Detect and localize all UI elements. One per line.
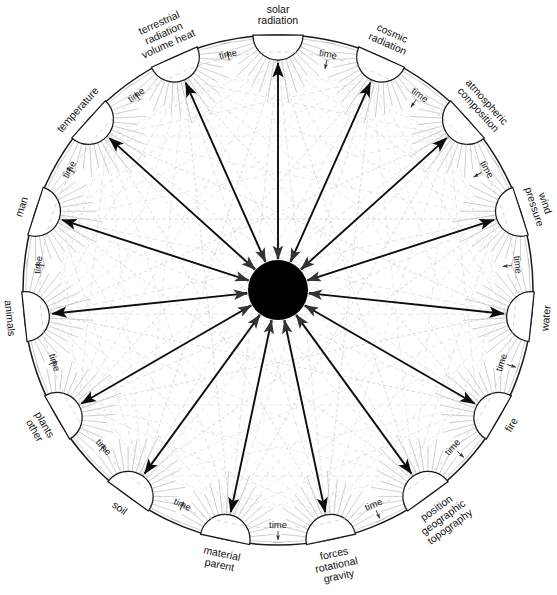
time-text: time <box>512 255 525 274</box>
hub-arrow-fire <box>306 306 475 404</box>
hub-arrow-cosmic-radiation <box>291 83 370 261</box>
hub-arrow-atmospheric-composition <box>302 138 447 268</box>
hub-arrow-terrestrial-radiation <box>186 83 265 261</box>
time-text: time <box>318 47 338 61</box>
time-label-9: time <box>93 437 114 458</box>
node-fire[interactable] <box>474 393 512 440</box>
time-label-2: time <box>469 159 496 185</box>
time-label-11: time <box>31 255 45 274</box>
hub-arrow-water <box>310 293 504 313</box>
label-line: radiation <box>258 14 298 26</box>
central-hub-node[interactable] <box>248 260 308 320</box>
hub-arrow-animals <box>52 293 246 313</box>
label-water: water <box>538 304 553 332</box>
label-line: solar <box>267 3 290 15</box>
time-text: time <box>442 437 462 458</box>
label-animals: animals <box>3 299 19 336</box>
label-soil: soil <box>110 498 130 517</box>
label-parent-material: parentmaterial <box>200 543 241 574</box>
node-wind-pressure[interactable] <box>496 187 529 236</box>
central-hub-circle[interactable] <box>248 260 308 320</box>
time-label-7: time <box>269 519 287 540</box>
time-text: time <box>409 85 430 104</box>
hub-arrow-man <box>62 220 247 280</box>
label-solar-radiation: solarradiation <box>258 3 298 27</box>
node-water[interactable] <box>507 292 535 342</box>
time-label-4: time <box>493 352 519 376</box>
node-solar-radiation[interactable] <box>253 35 303 60</box>
label-line: animals <box>3 299 19 336</box>
label-line: man <box>12 195 30 218</box>
time-label-12: time <box>60 159 79 181</box>
time-label-6: time <box>363 496 388 522</box>
label-gravity: gravityrotationalforces <box>312 543 362 586</box>
label-other-plants: otherplants <box>23 409 57 445</box>
hub-arrow-parent-material <box>231 321 272 512</box>
time-text: time <box>363 496 384 513</box>
node-man[interactable] <box>28 187 61 236</box>
node-parent-material[interactable] <box>201 514 250 544</box>
time-label-10: time <box>46 352 63 373</box>
label-line: soil <box>110 498 130 517</box>
label-wind-pressure: windpressure <box>523 182 557 228</box>
label-cosmic-radiation: cosmicradiation <box>367 19 414 57</box>
interaction-wheel: timetimetimetimetimetimetimetimetimetime… <box>0 0 557 595</box>
time-text: time <box>269 519 287 530</box>
time-label-13: time <box>126 85 148 105</box>
hub-arrow-other-plants <box>81 306 250 404</box>
hub-arrow-gravity <box>285 321 326 512</box>
hub-arrow-topography <box>297 316 412 474</box>
label-fire: fire <box>502 415 520 434</box>
hub-arrow-wind-pressure <box>308 220 493 280</box>
label-line: water <box>538 304 553 332</box>
node-gravity[interactable] <box>306 514 355 544</box>
label-man: man <box>12 195 30 218</box>
hub-arrow-temperature <box>109 138 254 268</box>
diagram-canvas: timetimetimetimetimetimetimetimetimetime… <box>0 0 557 595</box>
time-text: time <box>493 352 509 372</box>
node-animals[interactable] <box>22 292 50 342</box>
label-line: fire <box>502 415 520 434</box>
